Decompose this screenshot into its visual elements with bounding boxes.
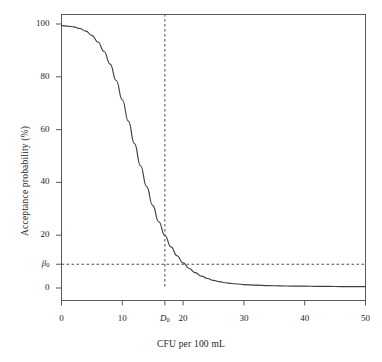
y-tick-label-1: β0 bbox=[28, 258, 50, 268]
y-tick-label-4: 60 bbox=[28, 124, 50, 134]
plot-area bbox=[0, 0, 382, 362]
x-tick-label-5: 40 bbox=[290, 313, 320, 323]
y-tick-label-2: 20 bbox=[28, 229, 50, 239]
y-tick-label-5: 80 bbox=[28, 71, 50, 81]
x-tick-label-1: 10 bbox=[107, 313, 137, 323]
y-tick-label-6: 100 bbox=[28, 18, 50, 28]
x-tick-label-4: 30 bbox=[229, 313, 259, 323]
x-tick-label-3: 20 bbox=[168, 313, 198, 323]
acceptance-probability-chart: CFU per 100 mL Acceptance probability (%… bbox=[0, 0, 382, 362]
y-tick-marks bbox=[56, 24, 61, 288]
y-tick-label-0: 0 bbox=[28, 282, 50, 292]
acceptance-probability-curve bbox=[62, 26, 366, 287]
reference-lines bbox=[62, 14, 366, 288]
y-tick-label-3: 40 bbox=[28, 176, 50, 186]
x-axis-title: CFU per 100 mL bbox=[0, 339, 382, 349]
x-tick-label-0: 0 bbox=[47, 313, 77, 323]
x-tick-label-6: 50 bbox=[351, 313, 381, 323]
x-tick-marks bbox=[62, 301, 366, 306]
